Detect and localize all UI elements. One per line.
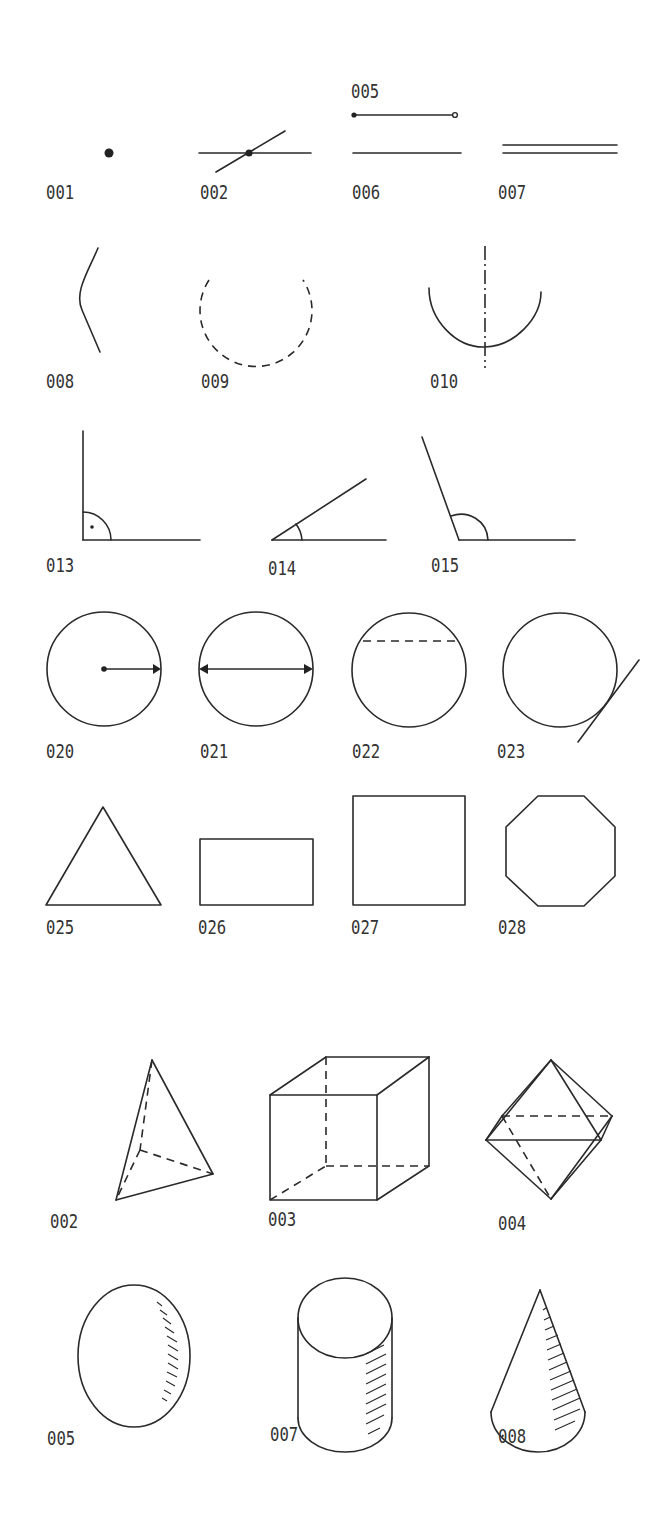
label-005: 005: [351, 82, 379, 101]
label-013: 013: [46, 556, 74, 575]
symbol-sheet: 001 002 005 006 007 008 009 010 013 014 …: [0, 0, 666, 1520]
dashed-arc-figure: [200, 280, 312, 366]
label-solid-005: 005: [47, 1429, 75, 1448]
curved-line-figure: [80, 248, 100, 352]
label-solid-003: 003: [268, 1210, 296, 1229]
point-figure: [105, 149, 114, 158]
cuboid-figure: [270, 1057, 429, 1200]
label-008: 008: [46, 372, 74, 391]
label-023: 023: [497, 742, 525, 761]
parallel-lines-figure: [503, 145, 617, 153]
line-segment-figure: [351, 112, 457, 117]
obtuse-angle-figure: [422, 437, 575, 540]
label-010: 010: [430, 372, 458, 391]
label-015: 015: [431, 556, 459, 575]
label-020: 020: [46, 742, 74, 761]
circle-chord-figure: [352, 613, 466, 727]
intersecting-lines-figure: [199, 131, 311, 172]
circle-diameter-figure: [199, 612, 313, 726]
label-001: 001: [46, 183, 74, 202]
rectangle-figure: [200, 839, 313, 905]
octagon-figure: [506, 796, 615, 906]
label-009: 009: [201, 372, 229, 391]
label-025: 025: [46, 918, 74, 937]
tetrahedron-figure: [116, 1060, 213, 1200]
label-solid-002: 002: [50, 1212, 78, 1231]
label-solid-007: 007: [270, 1425, 298, 1444]
sphere-figure: [78, 1285, 190, 1427]
label-007: 007: [498, 183, 526, 202]
label-021: 021: [200, 742, 228, 761]
label-022: 022: [352, 742, 380, 761]
label-028: 028: [498, 918, 526, 937]
figures-layer: [0, 0, 666, 1520]
label-026: 026: [198, 918, 226, 937]
cylinder-figure: [298, 1278, 392, 1452]
square-figure: [353, 796, 465, 905]
arc-with-axis-figure: [429, 246, 541, 368]
label-solid-008: 008: [498, 1427, 526, 1446]
triangle-figure: [46, 807, 161, 905]
label-006: 006: [352, 183, 380, 202]
right-angle-figure: [83, 431, 200, 540]
label-014: 014: [268, 559, 296, 578]
label-027: 027: [351, 918, 379, 937]
octahedron-figure: [486, 1060, 612, 1199]
acute-angle-figure: [272, 479, 386, 540]
circle-radius-figure: [47, 612, 161, 726]
label-solid-004: 004: [498, 1214, 526, 1233]
circle-tangent-figure: [503, 613, 639, 742]
label-002: 002: [200, 183, 228, 202]
